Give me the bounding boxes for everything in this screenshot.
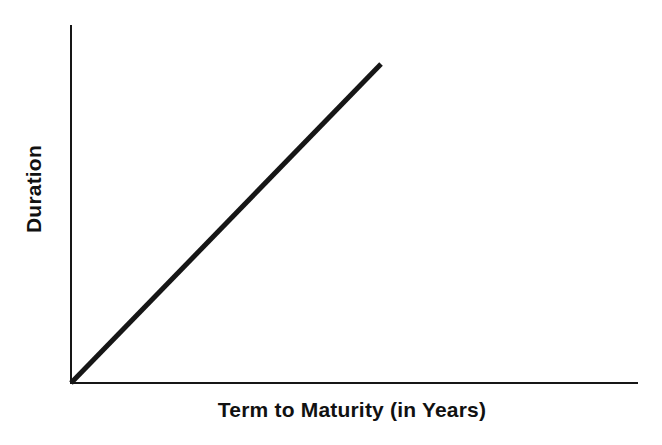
y-axis-line <box>70 25 72 384</box>
y-axis-title: Duration <box>22 161 46 233</box>
chart-figure: Duration Term to Maturity (in Years) <box>0 0 662 445</box>
plot-area <box>0 0 662 445</box>
series-line-duration <box>71 64 381 383</box>
x-axis-line <box>70 382 638 384</box>
x-axis-title: Term to Maturity (in Years) <box>71 398 633 422</box>
